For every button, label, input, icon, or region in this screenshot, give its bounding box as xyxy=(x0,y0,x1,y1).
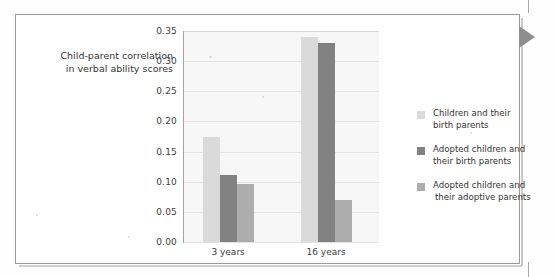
legend-label-line: their adoptive parents xyxy=(433,192,556,204)
page-rule-top-right xyxy=(528,0,529,13)
gridline xyxy=(184,242,379,243)
y-axis-tick-label: 0.15 xyxy=(156,147,177,157)
y-axis-title-line-2: in verbal ability scores xyxy=(25,63,173,76)
gridline xyxy=(184,121,379,122)
legend-swatch xyxy=(417,147,425,155)
scan-speck xyxy=(128,236,130,238)
scan-speck xyxy=(262,96,264,98)
legend-label-line: their birth parents xyxy=(433,156,556,168)
scan-speck xyxy=(36,214,38,216)
legend-swatch xyxy=(417,183,425,191)
gridline xyxy=(184,91,379,92)
x-axis-tick-label: 3 years xyxy=(211,247,244,257)
legend-label-line: Adopted children and xyxy=(433,180,556,192)
scan-speck xyxy=(470,132,472,134)
legend-label-line: Adopted children and xyxy=(433,144,556,156)
legend-label-line: birth parents xyxy=(433,120,556,132)
gridline xyxy=(184,61,379,62)
plot-wrapper: 0.000.050.100.150.200.250.300.35 3 years… xyxy=(183,31,379,243)
bar xyxy=(318,43,335,242)
scanned-page-background: Child-parent correlation in verbal abili… xyxy=(0,0,556,277)
chart-legend: Children and theirbirth parentsAdopted c… xyxy=(415,108,556,216)
legend-item: Children and theirbirth parents xyxy=(415,108,556,132)
legend-swatch xyxy=(417,111,425,119)
x-axis-tick-label: 16 years xyxy=(307,247,346,257)
y-axis-title: Child-parent correlation in verbal abili… xyxy=(25,50,173,75)
y-axis-tick-label: 0.00 xyxy=(156,237,177,247)
y-axis-tick-label: 0.20 xyxy=(156,116,177,126)
bar-chart: Child-parent correlation in verbal abili… xyxy=(15,14,520,264)
y-axis-tick-label: 0.10 xyxy=(156,177,177,187)
legend-label-line: Children and their xyxy=(433,108,556,120)
gridline xyxy=(184,31,379,32)
y-axis-tick-label: 0.30 xyxy=(156,56,177,66)
legend-item: Adopted children andtheir adoptive paren… xyxy=(415,180,556,204)
y-axis-title-line-1: Child-parent correlation xyxy=(25,50,173,63)
y-axis-tick-label: 0.25 xyxy=(156,86,177,96)
bar xyxy=(335,200,352,242)
bar xyxy=(237,184,254,243)
bar xyxy=(220,175,237,243)
legend-item: Adopted children andtheir birth parents xyxy=(415,144,556,168)
y-axis-tick-label: 0.35 xyxy=(156,26,177,36)
y-axis-tick-label: 0.05 xyxy=(156,207,177,217)
frame-shadow-bottom xyxy=(19,265,522,267)
scan-speck xyxy=(209,56,212,58)
bar xyxy=(203,137,220,243)
bar xyxy=(301,37,318,242)
page-rule-bottom-right xyxy=(528,262,529,277)
triangle-right-marker-icon xyxy=(519,26,535,48)
